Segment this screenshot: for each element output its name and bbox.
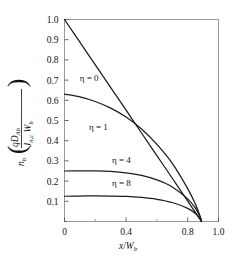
plot-frame [65, 20, 219, 222]
y-tick-label: 0.4 [47, 136, 59, 146]
y-tick-label: 0.5 [47, 116, 59, 126]
y-tick-label: 0.9 [47, 35, 59, 45]
y-tick-label: 0.1 [47, 197, 59, 207]
chart-svg: 0.10.20.30.40.50.60.70.80.91.0 00.40.81.… [0, 0, 236, 257]
x-tick-label: 0 [62, 227, 67, 237]
curve-label-8: η = 8 [112, 178, 131, 188]
curve-label-4: η = 4 [112, 155, 131, 165]
figure-container: 0.10.20.30.40.50.60.70.80.91.0 00.40.81.… [0, 0, 236, 257]
x-tick-label: 0.8 [182, 227, 194, 237]
curve-label-0: η = 0 [80, 73, 99, 83]
y-tick-label: 0.6 [47, 96, 59, 106]
y-axis-close-paren: ) [3, 79, 31, 87]
x-tick-label: 0.4 [120, 227, 132, 237]
y-tick-label: 0.2 [47, 177, 59, 187]
x-tick-label: 1.0 [213, 227, 225, 237]
curve-label-1: η = 1 [89, 122, 108, 132]
y-tick-label: 0.7 [47, 76, 59, 86]
y-tick-label: 0.8 [47, 55, 59, 65]
y-tick-label: 1.0 [47, 15, 59, 25]
y-tick-label: 0.3 [47, 156, 59, 166]
